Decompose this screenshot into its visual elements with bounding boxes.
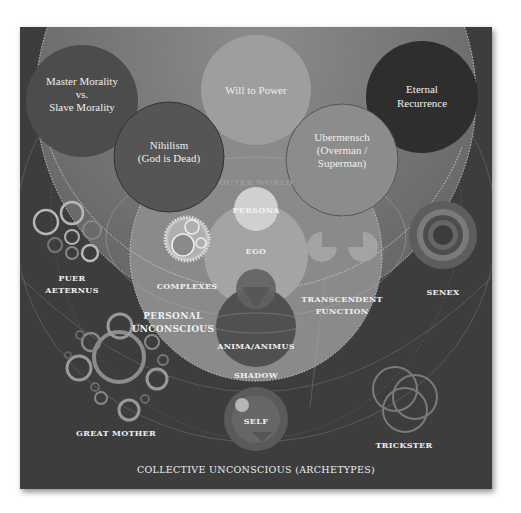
- psyche-diagram: Master Moralityvs.Slave Morality Will to…: [20, 27, 492, 489]
- ubermensch-label: Ubermensch(Overman /Superman): [314, 131, 370, 170]
- self-label: SELF: [244, 416, 268, 426]
- puer-aeternus-label: PUERAETERNUS: [44, 273, 98, 295]
- diagram-frame: Master Moralityvs.Slave Morality Will to…: [20, 27, 492, 489]
- ego-label: EGO: [246, 246, 267, 256]
- complexes-gear-icon: [165, 217, 209, 261]
- complexes-label: COMPLEXES: [157, 281, 218, 291]
- trickster-icon: [373, 367, 437, 432]
- will-to-power-label: Will to Power: [225, 84, 287, 96]
- trickster-label: TRICKSTER: [376, 440, 433, 450]
- persona-label: PERSONA: [232, 205, 280, 215]
- anima-animus-label: ANIMA/ANIMUS: [216, 341, 295, 351]
- great-mother-label: GREAT MOTHER: [76, 428, 156, 438]
- shadow-label: SHADOW: [234, 370, 279, 380]
- senex-icon: [409, 201, 477, 269]
- senex-label: SENEX: [427, 287, 460, 297]
- outer-world-label: OUTER WORLD: [219, 177, 293, 187]
- collective-unconscious-label: COLLECTIVE UNCONSCIOUS (ARCHETYPES): [137, 464, 375, 475]
